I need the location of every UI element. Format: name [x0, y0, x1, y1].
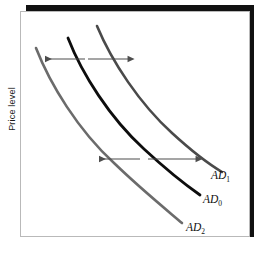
curves-layer: [0, 0, 276, 255]
curve-ad0: [68, 38, 200, 195]
aggregate-demand-figure: Price level AD1 AD0 AD2: [0, 0, 276, 255]
curve-label-ad0-sub: 0: [218, 199, 222, 208]
curve-label-ad0-base: AD: [203, 193, 218, 205]
curve-ad2: [36, 48, 182, 223]
ad-curves: [36, 26, 222, 223]
curve-label-ad0: AD0: [203, 193, 222, 208]
curve-label-ad2-base: AD: [186, 221, 201, 233]
curve-label-ad2-sub: 2: [201, 227, 205, 236]
curve-label-ad1: AD1: [211, 169, 230, 184]
curve-label-ad2: AD2: [186, 221, 205, 236]
curve-label-ad1-base: AD: [211, 169, 226, 181]
curve-ad1: [97, 26, 222, 172]
curve-label-ad1-sub: 1: [226, 175, 230, 184]
